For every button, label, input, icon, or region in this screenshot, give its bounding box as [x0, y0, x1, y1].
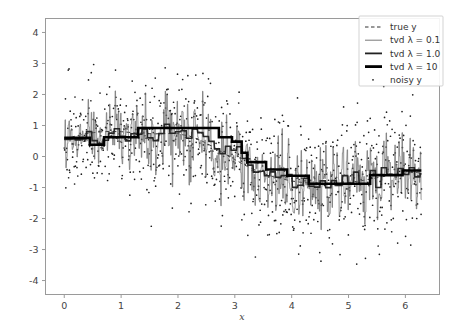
scatter-point: [197, 154, 199, 156]
scatter-point: [208, 151, 210, 153]
scatter-point: [197, 118, 199, 120]
scatter-point: [389, 120, 391, 122]
scatter-point: [378, 152, 380, 154]
scatter-point: [311, 205, 313, 207]
scatter-point: [391, 128, 393, 130]
scatter-point: [417, 160, 419, 162]
scatter-point: [201, 165, 203, 167]
scatter-point: [96, 117, 98, 119]
scatter-point: [194, 100, 196, 102]
scatter-point: [64, 149, 66, 151]
scatter-point: [168, 174, 170, 176]
scatter-point: [288, 125, 290, 127]
scatter-point: [181, 89, 183, 91]
scatter-point: [281, 200, 283, 202]
scatter-point: [393, 154, 395, 156]
scatter-point: [107, 120, 109, 122]
scatter-point: [71, 125, 73, 127]
scatter-point: [129, 194, 131, 196]
scatter-point: [359, 213, 361, 215]
scatter-point: [245, 140, 247, 142]
scatter-point: [392, 218, 394, 220]
x-tick-label: 3: [232, 300, 238, 311]
scatter-point: [387, 140, 389, 142]
scatter-point: [416, 218, 418, 220]
scatter-point: [238, 102, 240, 104]
scatter-point: [100, 161, 102, 163]
scatter-point: [392, 194, 394, 196]
scatter-point: [127, 119, 129, 121]
scatter-point: [170, 110, 172, 112]
scatter-point: [112, 153, 114, 155]
scatter-point: [320, 260, 322, 262]
scatter-point: [116, 105, 118, 107]
scatter-point: [145, 85, 147, 87]
scatter-point: [142, 167, 144, 169]
scatter-point: [124, 112, 126, 114]
scatter-point: [323, 151, 325, 153]
scatter-point: [108, 156, 110, 158]
scatter-point: [295, 200, 297, 202]
scatter-point: [197, 107, 199, 109]
scatter-point: [343, 106, 345, 108]
scatter-point: [407, 197, 409, 199]
scatter-point: [184, 156, 186, 158]
scatter-point: [286, 211, 288, 213]
scatter-point: [174, 158, 176, 160]
scatter-point: [165, 140, 167, 142]
scatter-point: [90, 72, 92, 74]
scatter-point: [285, 177, 287, 179]
scatter-point: [80, 113, 82, 115]
scatter-point: [144, 151, 146, 153]
scatter-point: [412, 217, 414, 219]
scatter-point: [131, 152, 133, 154]
scatter-point: [420, 214, 422, 216]
scatter-point: [190, 203, 192, 205]
scatter-point: [90, 164, 92, 166]
scatter-point: [356, 121, 358, 123]
scatter-point: [125, 145, 127, 147]
scatter-point: [163, 102, 165, 104]
scatter-point: [167, 88, 169, 90]
scatter-point: [164, 67, 166, 69]
scatter-point: [247, 120, 249, 122]
scatter-point: [364, 225, 366, 227]
scatter-point: [73, 113, 75, 115]
scatter-point: [161, 125, 163, 127]
scatter-point: [309, 146, 311, 148]
scatter-point: [77, 125, 79, 127]
scatter-point: [392, 166, 394, 168]
scatter-point: [66, 169, 68, 171]
scatter-point: [69, 110, 71, 112]
scatter-point: [207, 96, 209, 98]
scatter-point: [222, 215, 224, 217]
scatter-point: [348, 234, 350, 236]
scatter-point: [94, 177, 96, 179]
scatter-point: [272, 211, 274, 213]
scatter-point: [344, 216, 346, 218]
x-tick-label: 1: [118, 300, 124, 311]
scatter-point: [69, 171, 71, 173]
scatter-point: [292, 226, 294, 228]
scatter-point: [323, 164, 325, 166]
scatter-point: [398, 134, 400, 136]
scatter-point: [329, 229, 331, 231]
scatter-point: [159, 105, 161, 107]
scatter-point: [171, 207, 173, 209]
y-tick-label: -4: [29, 275, 38, 286]
scatter-point: [208, 78, 210, 80]
scatter-point: [189, 141, 191, 143]
scatter-point: [340, 172, 342, 174]
scatter-point: [401, 111, 403, 113]
scatter-point: [75, 165, 77, 167]
scatter-point: [375, 197, 377, 199]
scatter-point: [386, 111, 388, 113]
scatter-point: [76, 167, 78, 169]
scatter-point: [319, 252, 321, 254]
scatter-point: [75, 117, 77, 119]
scatter-point: [104, 108, 106, 110]
scatter-point: [256, 194, 258, 196]
scatter-point: [264, 204, 266, 206]
scatter-point: [341, 134, 343, 136]
scatter-point: [173, 107, 175, 109]
